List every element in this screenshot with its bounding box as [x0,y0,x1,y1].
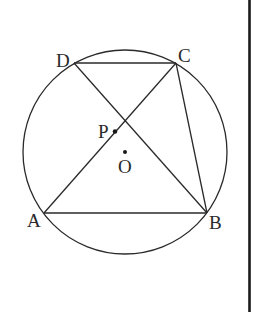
label-B: B [209,212,222,233]
segment-AC [44,63,176,213]
point-O-dot [123,150,127,154]
segment-DB [74,63,207,213]
label-A: A [27,210,41,231]
geometry-figure: D C A B P O [0,0,256,312]
label-P: P [98,121,109,142]
point-P-dot [113,129,118,134]
label-D: D [56,50,70,71]
label-O: O [118,156,132,177]
label-C: C [178,45,191,66]
